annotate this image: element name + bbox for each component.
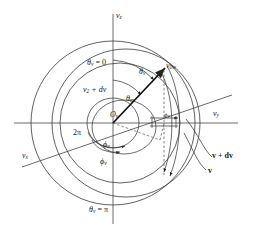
label-phi-v-lower: ϕv [100,158,107,167]
label-vector-v-plus-dv: v + dv [212,152,233,160]
label-theta-v-equals-pi: θv = π [89,206,108,215]
label-theta-m: θm [126,95,134,104]
label-phi-v-upper: ϕv [103,141,110,150]
axis-label-vz: vz [116,12,122,21]
theta-m-arc [113,80,141,95]
label-v2-plus-dv: v2 + dv [83,86,106,95]
label-v-0w: v0w [166,62,176,71]
label-phi-v-element: ϕv [164,112,170,120]
label-origin-Ov: Ov [110,111,118,120]
label-theta-v: θv [139,68,145,77]
label-two-pi: 2π [73,129,81,137]
meridian-arc-1 [167,66,179,176]
axis-label-vy: vy [213,110,219,119]
axis-vx [22,95,232,167]
axis-label-vx: vx [22,152,28,161]
dashed-connector [160,123,164,140]
velocity-space-diagram: vz vy vx θv = 0 θv = π v2 + dv θv θm Ov … [0,0,253,237]
dashed-azimuth-ray [113,123,160,140]
label-theta-v-equals-zero: θv = 0 [87,59,106,68]
label-vector-v: v [208,167,212,175]
